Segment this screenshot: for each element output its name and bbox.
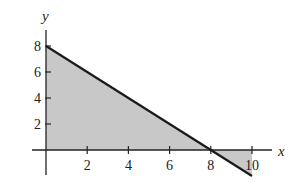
- x-tick-label: 6: [166, 158, 173, 173]
- y-tick-label: 8: [34, 39, 41, 54]
- x-tick-label: 10: [245, 158, 259, 173]
- y-tick-label: 2: [34, 117, 41, 132]
- x-tick-label: 8: [207, 158, 214, 173]
- x-axis-label: x: [277, 143, 285, 159]
- y-axis-label: y: [40, 8, 49, 24]
- y-tick-label: 6: [34, 65, 41, 80]
- x-tick-label: 4: [125, 158, 132, 173]
- x-tick-label: 2: [84, 158, 91, 173]
- y-tick-label: 4: [34, 91, 41, 106]
- chart: 2468102468xy: [0, 0, 305, 183]
